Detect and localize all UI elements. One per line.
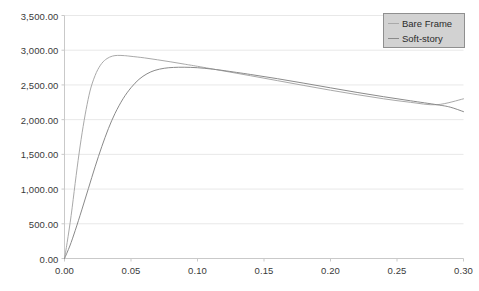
series-group [65, 55, 464, 258]
legend-item-0[interactable]: Bare Frame [384, 16, 464, 31]
chart-container: 0.00500.001,000.001,500.002,000.002,500.… [0, 0, 479, 291]
axis-line-group [62, 16, 464, 262]
legend-line-swatch-soft-story [388, 38, 399, 39]
x-axis-tick-label: 0.30 [454, 265, 473, 276]
x-axis-tick-label: 0.25 [388, 265, 407, 276]
series-line-soft-story [65, 67, 464, 258]
y-axis-tick-label: 1,500.00 [0, 149, 59, 160]
x-axis-tick-label: 0.10 [188, 265, 207, 276]
y-axis-tick-label: 2,500.00 [0, 79, 59, 90]
y-axis-tick-label: 500.00 [0, 218, 59, 229]
legend-line-swatch-bare-frame [388, 23, 399, 24]
chart-legend[interactable]: Bare Frame Soft-story [383, 13, 465, 48]
x-axis-tick-label: 0.00 [55, 265, 74, 276]
legend-item-1[interactable]: Soft-story [384, 31, 464, 46]
x-axis-tick-label: 0.05 [122, 265, 141, 276]
x-axis-tick-label: 0.15 [255, 265, 274, 276]
legend-label-bare-frame: Bare Frame [402, 18, 452, 29]
legend-label-soft-story: Soft-story [402, 33, 443, 44]
y-axis-tick-label: 1,000.00 [0, 184, 59, 195]
y-axis-tick-label: 3,000.00 [0, 45, 59, 56]
series-line-bare-frame [65, 55, 464, 258]
y-axis-tick-label: 0.00 [0, 253, 59, 264]
x-axis-tick-label: 0.20 [321, 265, 340, 276]
y-axis-tick-label: 3,500.00 [0, 10, 59, 21]
y-axis-tick-label: 2,000.00 [0, 114, 59, 125]
